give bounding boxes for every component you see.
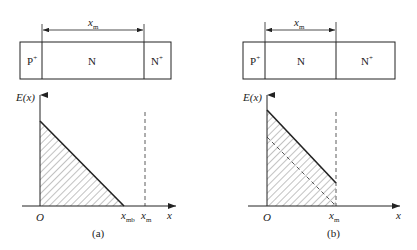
region-n-label: N <box>88 55 96 67</box>
region-p-label: P+ <box>250 54 260 67</box>
caption-b: (b) <box>327 227 340 240</box>
origin-label: O <box>263 211 271 223</box>
dimension-xm-b: xm <box>265 16 336 42</box>
tick-xm-label: xm <box>140 209 152 224</box>
x-axis-label: x <box>395 209 401 221</box>
region-nplus-label: N+ <box>361 54 373 67</box>
device-structure-a: P+ N N+ <box>20 42 171 79</box>
region-p-label: P+ <box>27 54 37 67</box>
field-plot-a: E(x) O xmb xm x (a) <box>15 91 176 240</box>
caption-a: (a) <box>92 227 105 240</box>
origin-label: O <box>36 211 44 223</box>
region-nplus-label: N+ <box>151 54 163 67</box>
y-axis-label: E(x) <box>15 91 35 104</box>
field-plot-b: E(x) O xm x (b) <box>242 91 401 240</box>
tick-xmb-label: xmb <box>120 209 135 224</box>
panel-a: P+ N N+ xm E(x) O xmb xm x (a) <box>15 16 176 240</box>
dimension-xm-a: xm <box>42 16 144 42</box>
device-structure-b: P+ N N+ <box>243 42 395 79</box>
panel-b: P+ N N+ xm E(x) O xm x (b) <box>242 16 401 240</box>
x-axis-label: x <box>166 209 172 221</box>
tick-xm-label: xm <box>328 209 340 224</box>
xm-dimension-label: xm <box>87 16 99 31</box>
field-area-hatch <box>267 110 336 206</box>
xm-dimension-label: xm <box>293 16 305 31</box>
region-n-label: N <box>297 55 305 67</box>
y-axis-label: E(x) <box>242 91 262 104</box>
pn-junction-field-diagram: P+ N N+ xm E(x) O xmb xm x (a) <box>0 0 417 250</box>
